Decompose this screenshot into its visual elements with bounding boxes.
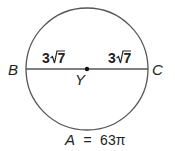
point-label-c: C (152, 61, 163, 78)
segment-label-yc: 3 7 (108, 50, 132, 66)
area-caption: A = 63π (64, 131, 126, 148)
area-equation: A = 63π (64, 131, 126, 148)
center-point-dot (85, 67, 89, 71)
point-label-b: B (8, 61, 18, 78)
right-coefficient: 3 (108, 50, 116, 66)
circle-diagram: 3 7 3 7 B C Y A = 63π (0, 0, 175, 151)
left-coefficient: 3 (42, 50, 50, 66)
segment-label-by: 3 7 (42, 50, 66, 66)
right-radicand: 7 (124, 50, 132, 66)
area-variable: A (64, 131, 75, 148)
area-value: 63π (100, 132, 126, 148)
left-radicand: 7 (58, 50, 66, 66)
point-label-y: Y (75, 71, 86, 88)
area-equals: = (83, 132, 91, 148)
